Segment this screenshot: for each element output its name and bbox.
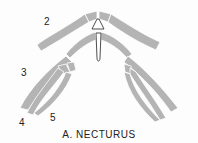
label-arch-4: 4 [19,118,25,128]
necturus-diagram: 2 3 4 5 A. NECTURUS [0,0,198,143]
urohyal-stem [96,33,101,61]
figure-caption: A. NECTURUS [0,129,198,140]
arch-1-right [101,32,132,58]
arch-5-right [124,72,160,122]
label-arch-2: 2 [44,17,50,27]
label-arch-3: 3 [21,68,27,78]
skeleton-drawing [0,0,198,143]
arch-1-left [66,32,96,58]
label-arch-5: 5 [50,113,56,123]
